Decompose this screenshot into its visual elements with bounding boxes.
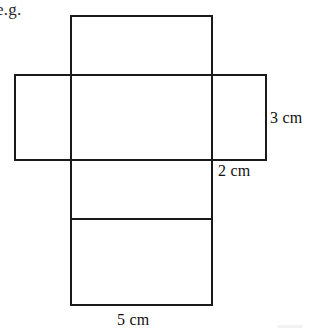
- net-face-center: [71, 75, 212, 160]
- geometry-figure-canvas: e.g. 3 cm 2 cm 5 cm: [0, 0, 317, 334]
- measurement-label-height: 3 cm: [270, 110, 302, 126]
- cuboid-net-drawing: [0, 0, 317, 334]
- measurement-label-width: 5 cm: [117, 312, 149, 328]
- net-face-right-flap: [212, 75, 266, 160]
- net-face-lower-base: [71, 219, 212, 305]
- scan-artifact: [277, 325, 303, 328]
- net-face-left-flap: [15, 75, 71, 160]
- measurement-label-depth: 2 cm: [218, 163, 250, 179]
- net-face-top-flap: [71, 16, 212, 75]
- net-face-lower-upper: [71, 160, 212, 219]
- example-prefix-text: e.g.: [0, 1, 21, 18]
